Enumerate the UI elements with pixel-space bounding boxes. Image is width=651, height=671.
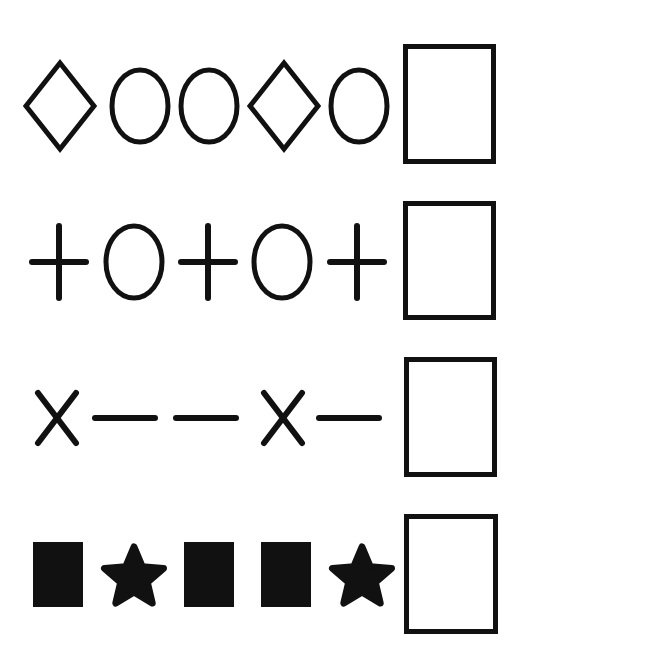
circle-shape [106, 226, 162, 298]
filled-square-shape [261, 542, 311, 607]
diamond-shape [250, 63, 318, 149]
plus-shape [330, 226, 384, 298]
cross-shape [38, 393, 76, 443]
plus-shape [32, 226, 86, 298]
circle-shape [254, 226, 310, 298]
answer-box[interactable] [407, 360, 495, 475]
row-4 [33, 517, 496, 632]
answer-box[interactable] [407, 517, 496, 632]
cross-shape [264, 393, 302, 443]
star-shape [105, 547, 164, 603]
circle-shape [112, 70, 168, 142]
row-1 [26, 47, 494, 162]
row-3 [38, 360, 495, 475]
filled-square-shape [33, 542, 83, 607]
answer-box[interactable] [406, 47, 494, 162]
star-shape [333, 547, 392, 603]
answer-box[interactable] [406, 204, 494, 318]
pattern-puzzle [0, 0, 651, 671]
circle-shape [181, 70, 237, 142]
plus-shape [181, 226, 235, 298]
diamond-shape [26, 63, 94, 149]
filled-square-shape [184, 542, 234, 607]
circle-shape [331, 70, 387, 142]
row-2 [32, 204, 494, 318]
